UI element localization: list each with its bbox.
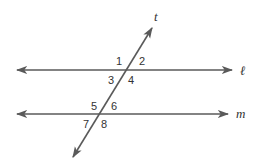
angle-4: 4: [128, 74, 134, 86]
angle-8: 8: [101, 118, 107, 130]
parallel-lines-transversal-diagram: t ℓ m 1 2 3 4 5 6 7 8: [0, 0, 264, 167]
angle-1: 1: [116, 55, 122, 67]
angle-5: 5: [91, 100, 97, 112]
label-l: ℓ: [240, 63, 246, 78]
transversal-t: [73, 28, 152, 157]
angle-2: 2: [139, 55, 145, 67]
angle-7: 7: [83, 118, 89, 130]
label-m: m: [236, 106, 245, 121]
label-t: t: [154, 9, 158, 24]
angle-3: 3: [108, 74, 114, 86]
angle-6: 6: [111, 100, 117, 112]
